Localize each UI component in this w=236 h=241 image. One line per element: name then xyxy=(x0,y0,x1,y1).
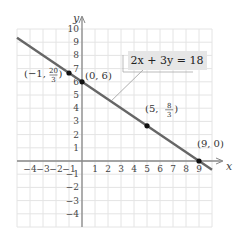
y-tick-label: −1 xyxy=(66,169,79,179)
axes: xy xyxy=(17,12,233,227)
y-tick-label: 9 xyxy=(73,37,79,47)
y-tick-label: 2 xyxy=(73,130,79,140)
svg-text:3: 3 xyxy=(51,76,55,84)
svg-text:): ) xyxy=(59,68,63,79)
y-tick-label: 1 xyxy=(73,143,79,153)
x-tick-label: 8 xyxy=(183,164,189,174)
data-point xyxy=(144,123,149,128)
equation-callout: 2x + 3y = 18 xyxy=(112,51,207,100)
chart: xy −4−3−2−1123456789−4−3−2−112345678910 … xyxy=(0,0,236,241)
svg-text:(−1,: (−1, xyxy=(24,68,46,79)
point-label: (9, 0) xyxy=(197,138,224,149)
x-tick-label: 5 xyxy=(144,164,150,174)
x-tick-label: 6 xyxy=(157,164,163,174)
data-point xyxy=(196,158,201,163)
x-tick-label: −4 xyxy=(23,164,37,174)
x-tick-label: 9 xyxy=(196,164,202,174)
data-point xyxy=(66,70,71,75)
x-tick-label: 2 xyxy=(105,164,111,174)
y-tick-label: −3 xyxy=(66,196,80,206)
svg-text:(5,: (5, xyxy=(145,103,158,114)
x-tick-label: 4 xyxy=(131,164,137,174)
data-point xyxy=(79,79,84,84)
y-tick-label: 8 xyxy=(73,50,79,60)
equation-label: 2x + 3y = 18 xyxy=(131,54,204,67)
y-tick-label: 10 xyxy=(68,24,80,34)
point-label: (0, 6) xyxy=(85,70,112,81)
x-tick-label: 7 xyxy=(170,164,176,174)
y-tick-label: 3 xyxy=(73,116,79,126)
x-tick-label: −3 xyxy=(36,164,50,174)
x-tick-label: 1 xyxy=(92,164,98,174)
y-tick-label: 4 xyxy=(73,103,79,113)
x-tick-label: −2 xyxy=(49,164,62,174)
y-tick-label: −2 xyxy=(66,182,79,192)
svg-text:20: 20 xyxy=(49,67,58,75)
svg-text:): ) xyxy=(174,103,178,114)
y-tick-label: 5 xyxy=(73,90,79,100)
y-tick-label: −4 xyxy=(66,209,80,219)
svg-text:3: 3 xyxy=(167,111,171,119)
x-axis-label: x xyxy=(226,160,233,173)
x-tick-label: 3 xyxy=(118,164,124,174)
svg-text:8: 8 xyxy=(167,102,171,110)
y-tick-label: 7 xyxy=(73,64,79,74)
